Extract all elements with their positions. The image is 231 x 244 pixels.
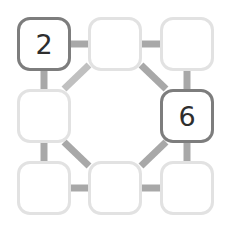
node-middle-right[interactable]: 6 [160, 89, 214, 143]
edge-bottom-center-to-middle-left [64, 142, 89, 166]
node-top-right[interactable] [160, 17, 214, 71]
edge-top-center-to-middle-right [141, 65, 166, 89]
node-bottom-right[interactable] [160, 161, 214, 215]
node-label-middle-right: 6 [178, 103, 195, 130]
node-bottom-left[interactable] [17, 161, 71, 215]
edge-middle-right-to-bottom-center [141, 142, 166, 166]
node-bottom-center[interactable] [88, 161, 142, 215]
puzzle-canvas: 2 6 [0, 0, 231, 244]
node-top-center[interactable] [88, 17, 142, 71]
node-middle-left[interactable] [17, 89, 71, 143]
edge-middle-left-to-top-center [64, 65, 89, 89]
node-top-left[interactable]: 2 [17, 17, 71, 71]
node-label-top-left: 2 [35, 31, 52, 58]
